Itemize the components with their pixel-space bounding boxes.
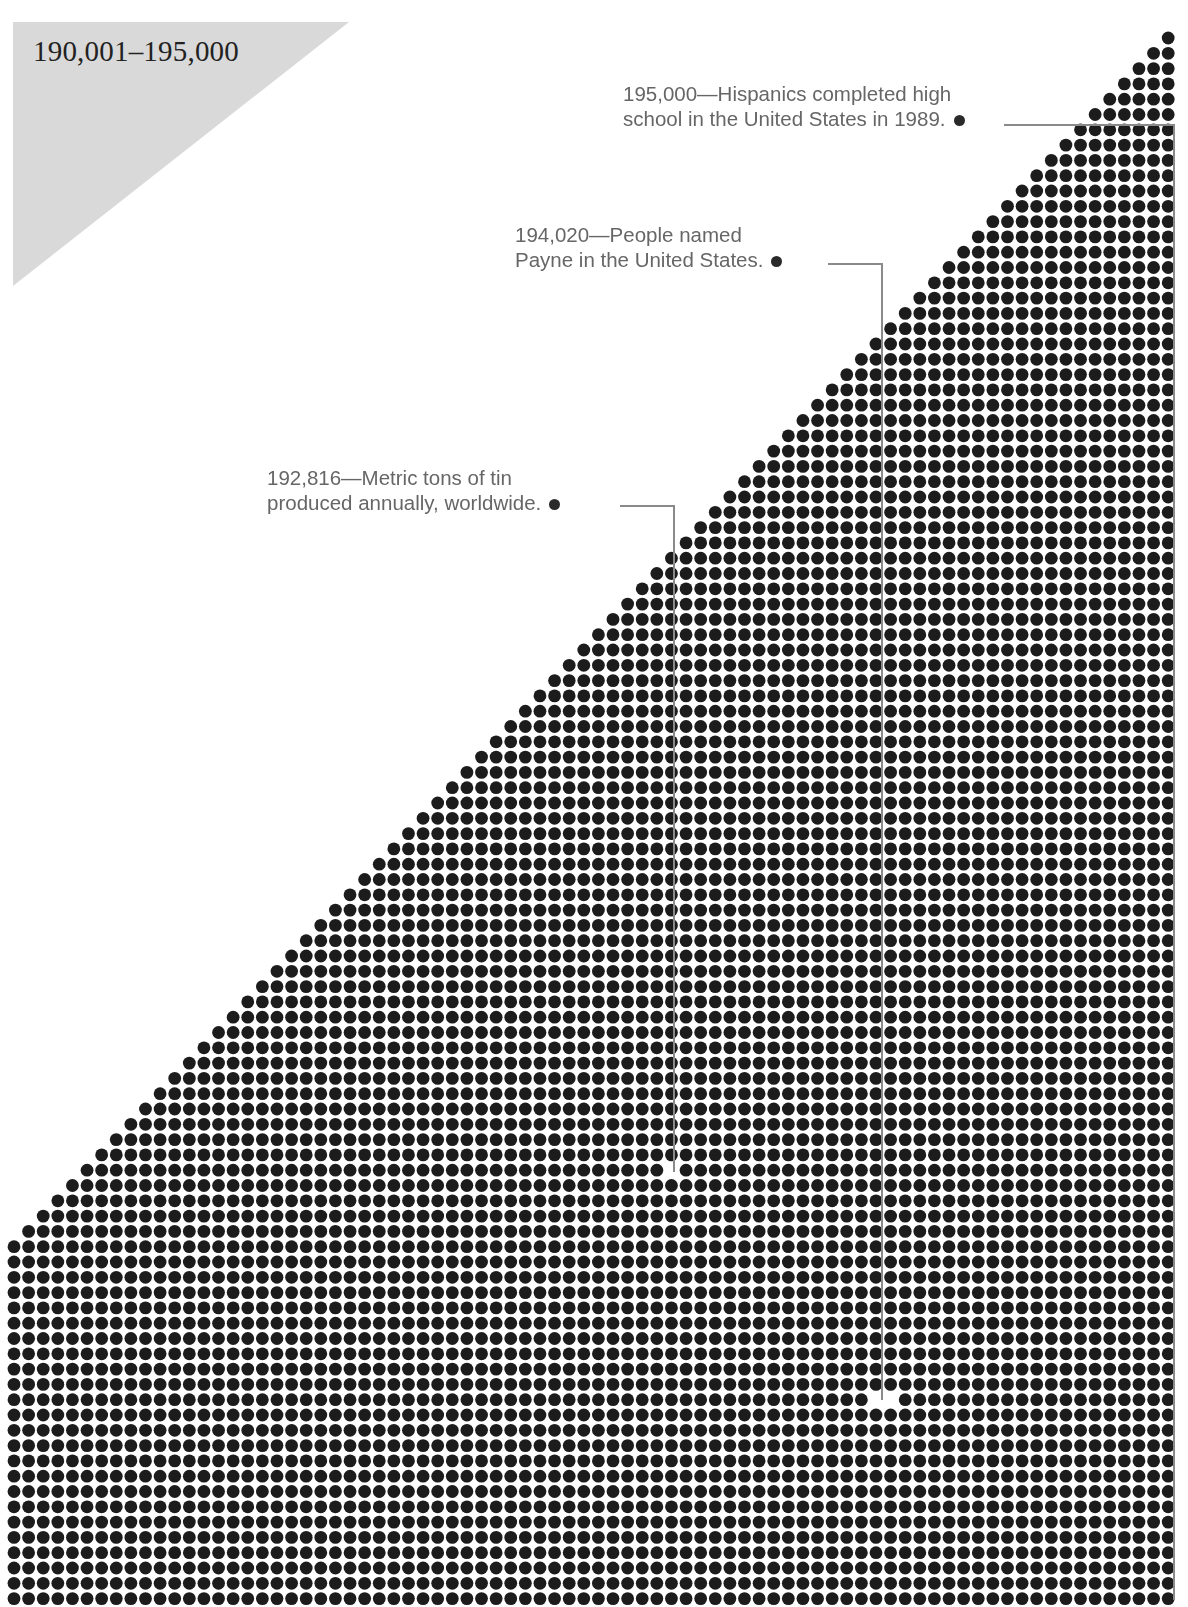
callout-195000: 195,000—Hispanics completed high school … (623, 81, 965, 131)
bullet-icon (549, 499, 560, 510)
callout-text-line2: school in the United States in 1989. (623, 106, 965, 131)
callout-192816: 192,816—Metric tons of tin produced annu… (267, 465, 560, 515)
callout-text-line1: 195,000—Hispanics completed high (623, 81, 965, 106)
callout-text-line2: Payne in the United States. (515, 247, 782, 272)
callout-text-line1: 194,020—People named (515, 222, 782, 247)
bullet-icon (771, 256, 782, 267)
bullet-icon (954, 115, 965, 126)
callout-text-line1: 192,816—Metric tons of tin (267, 465, 560, 490)
callout-text-line2: produced annually, worldwide. (267, 490, 560, 515)
callout-194020: 194,020—People named Payne in the United… (515, 222, 782, 272)
